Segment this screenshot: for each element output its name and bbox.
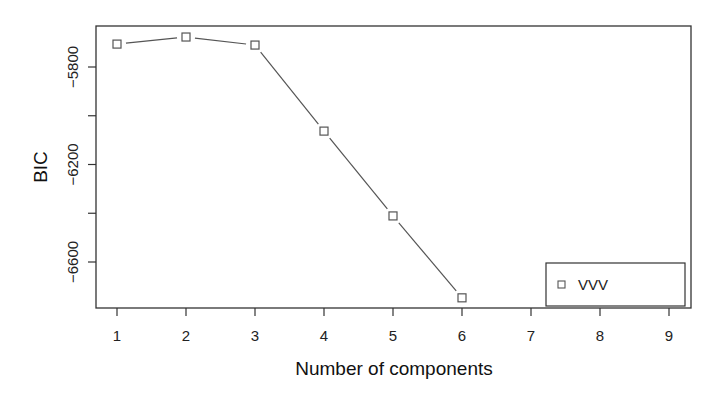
x-tick-label: 2 <box>182 327 190 344</box>
bic-chart: −5800−6200−6600 123456789 VVV Number of … <box>0 0 718 395</box>
x-axis-title: Number of components <box>295 358 493 379</box>
series-line <box>330 138 388 209</box>
series-line <box>399 223 456 291</box>
x-tick-label: 7 <box>527 327 535 344</box>
series-vvv <box>113 33 466 302</box>
y-tick-label: −5800 <box>64 46 81 88</box>
data-point-marker <box>389 212 397 220</box>
legend: VVV <box>546 263 685 306</box>
x-axis: 123456789 <box>113 308 673 344</box>
x-tick-label: 6 <box>458 327 466 344</box>
series-line <box>195 38 246 44</box>
legend-marker <box>558 281 565 288</box>
x-tick-label: 3 <box>251 327 259 344</box>
y-tick-label: −6600 <box>64 241 81 283</box>
series-line <box>126 38 177 43</box>
x-tick-label: 5 <box>389 327 397 344</box>
data-point-marker <box>320 127 328 135</box>
data-point-marker <box>182 33 190 41</box>
x-tick-label: 1 <box>113 327 121 344</box>
x-tick-label: 8 <box>596 327 604 344</box>
y-tick-label: −6200 <box>64 143 81 185</box>
legend-box <box>546 263 685 306</box>
y-axis-title: BIC <box>30 151 51 183</box>
series-line <box>261 52 319 124</box>
data-point-marker <box>251 41 259 49</box>
data-point-marker <box>113 40 121 48</box>
data-point-marker <box>458 294 466 302</box>
x-tick-label: 9 <box>665 327 673 344</box>
legend-label: VVV <box>578 276 608 293</box>
y-axis: −5800−6200−6600 <box>64 46 96 283</box>
x-tick-label: 4 <box>320 327 328 344</box>
